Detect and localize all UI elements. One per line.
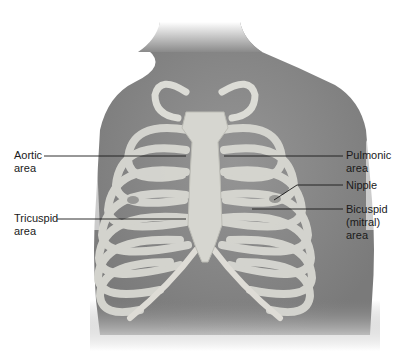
left-nipple xyxy=(127,196,139,204)
label-bicuspid-mitral-area: Bicuspid (mitral) area xyxy=(346,203,388,242)
label-tricuspid-area: Tricuspid area xyxy=(14,212,58,238)
label-pulmonic-area: Pulmonic area xyxy=(346,149,391,175)
label-aortic-area: Aortic area xyxy=(14,149,42,175)
label-nipple: Nipple xyxy=(346,179,377,192)
chest-illustration xyxy=(0,0,403,351)
torso xyxy=(83,22,381,351)
